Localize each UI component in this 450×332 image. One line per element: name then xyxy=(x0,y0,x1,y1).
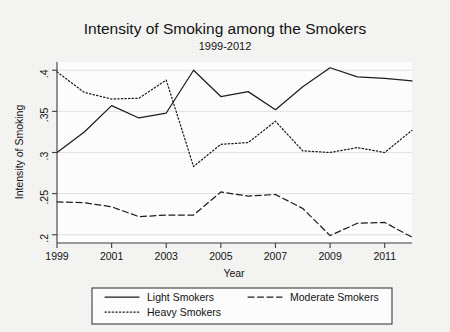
x-tick-label: 2009 xyxy=(318,250,342,262)
y-axis-title: Intensity of Smoking xyxy=(13,105,25,200)
x-tick-label: 2001 xyxy=(100,250,124,262)
x-tick-label: 2007 xyxy=(264,250,288,262)
x-tick-label: 1999 xyxy=(45,250,69,262)
smoking-intensity-line-chart: Intensity of Smoking among the Smokers 1… xyxy=(0,0,450,332)
y-tick-label: .2 xyxy=(38,234,50,243)
chart-subtitle: 1999-2012 xyxy=(199,40,252,52)
chart-figure: Intensity of Smoking among the Smokers 1… xyxy=(0,0,450,332)
y-tick-label: .3 xyxy=(38,152,50,161)
x-tick-label: 2003 xyxy=(155,250,179,262)
legend-label-moderate-smokers: Moderate Smokers xyxy=(290,291,379,303)
x-tick-label: 2005 xyxy=(209,250,233,262)
chart-title: Intensity of Smoking among the Smokers xyxy=(84,20,367,37)
legend-label-heavy-smokers: Heavy Smokers xyxy=(147,306,221,318)
y-tick-label: .25 xyxy=(38,190,50,205)
x-axis-title: Year xyxy=(223,267,245,279)
legend: Light SmokersModerate SmokersHeavy Smoke… xyxy=(92,288,392,324)
y-tick-label: .4 xyxy=(38,69,50,78)
legend-label-light-smokers: Light Smokers xyxy=(147,291,214,303)
plot-area xyxy=(57,62,412,243)
x-tick-label: 2011 xyxy=(373,250,396,262)
y-tick-label: .35 xyxy=(38,108,50,123)
